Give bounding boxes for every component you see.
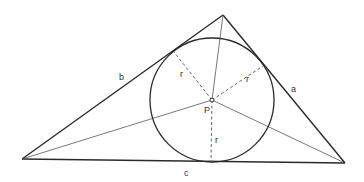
side-a: [223, 15, 345, 163]
label-radius-3: r: [215, 135, 218, 145]
label-side-b: b: [119, 72, 124, 82]
incenter-point: [210, 98, 214, 102]
diagram-canvas: b a c r r r P: [0, 0, 364, 182]
label-radius-2: r: [246, 74, 249, 84]
label-incenter: P: [204, 105, 210, 115]
bisector-left: [22, 100, 212, 159]
label-radius-1: r: [180, 69, 183, 79]
side-c: [22, 159, 345, 163]
bisector-top: [212, 15, 223, 100]
radius-to-a: [212, 66, 263, 100]
side-b: [22, 15, 223, 159]
label-side-a: a: [291, 84, 296, 94]
incircle-diagram: b a c r r r P: [0, 0, 364, 182]
bisector-right: [212, 100, 345, 163]
radius-to-c: [211, 100, 212, 162]
label-side-c: c: [184, 168, 189, 178]
